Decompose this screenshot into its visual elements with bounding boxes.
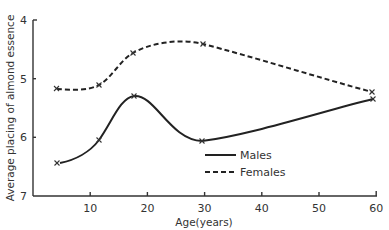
x-tick-label: 20 — [140, 202, 154, 215]
x-tick-label: 40 — [255, 202, 269, 215]
legend: Males Females — [205, 149, 286, 179]
series-females-line — [57, 41, 372, 92]
y-tick-label: 5 — [20, 73, 27, 86]
series-males-line — [60, 96, 373, 163]
x-tick-label: 50 — [312, 202, 326, 215]
x-tick-label: 30 — [198, 202, 212, 215]
legend-males-label: Males — [240, 149, 272, 162]
y-tick-label: 6 — [20, 131, 27, 144]
y-axis-title: Average placing of almond essence — [4, 15, 16, 202]
y-tick-label: 7 — [20, 190, 27, 203]
markers — [54, 42, 376, 166]
chart: 4 5 6 7 10 20 30 40 50 60 Age(years) Ave… — [0, 0, 389, 230]
x-tick-label: 10 — [83, 202, 97, 215]
legend-females-label: Females — [240, 166, 286, 179]
x-marker-icon — [370, 90, 375, 95]
x-tick-label: 60 — [369, 202, 383, 215]
x-axis-title: Age(years) — [175, 216, 232, 228]
x-marker-icon — [97, 138, 102, 143]
x-marker-icon — [55, 161, 60, 166]
y-tick-label: 4 — [20, 14, 27, 27]
